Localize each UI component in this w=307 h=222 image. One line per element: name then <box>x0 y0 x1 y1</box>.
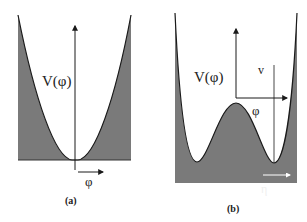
panel-b-y-label: V(φ) <box>194 70 223 85</box>
panel-a-x-label: φ <box>85 175 93 188</box>
panel-b-eta-label: η <box>261 183 267 195</box>
panel-b-x-label: φ <box>252 104 260 117</box>
panel-b <box>175 13 297 183</box>
panel-a-caption: (a) <box>65 196 77 206</box>
panel-a-y-label: V(φ) <box>42 74 71 89</box>
panel-b-caption: (b) <box>227 204 239 214</box>
panel-b-vev-label: v <box>258 64 264 76</box>
panel-a <box>18 15 131 172</box>
